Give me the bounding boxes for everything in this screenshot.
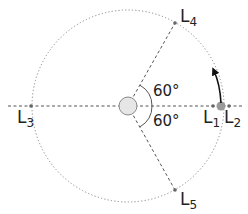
- label-l4: L4: [180, 8, 197, 28]
- point-l3: [29, 104, 33, 108]
- label-l1: L1: [203, 109, 220, 129]
- angle-label-upper: 60°: [153, 84, 180, 99]
- label-l2: L2: [224, 109, 241, 129]
- label-l3: L3: [17, 109, 34, 129]
- point-l5: [173, 188, 177, 192]
- central-body: [119, 97, 137, 115]
- angle-label-lower: 60°: [153, 114, 180, 129]
- point-l4: [173, 21, 177, 25]
- orbit-direction-arrow: [214, 71, 221, 103]
- label-l5: L5: [180, 191, 197, 211]
